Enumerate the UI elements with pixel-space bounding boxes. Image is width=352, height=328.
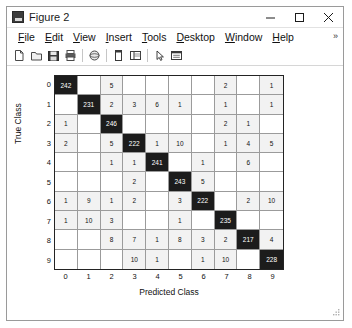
matrix-cell-9-5[interactable] <box>169 250 192 269</box>
matrix-cell-5-8[interactable] <box>237 172 260 191</box>
matrix-cell-4-8[interactable]: 6 <box>237 153 260 172</box>
matrix-cell-9-8[interactable] <box>237 250 260 269</box>
matrix-cell-9-3[interactable]: 10 <box>123 250 146 269</box>
matrix-cell-1-5[interactable]: 1 <box>169 95 192 114</box>
matrix-cell-7-9[interactable] <box>260 211 283 230</box>
matrix-cell-6-3[interactable]: 2 <box>123 192 146 211</box>
matrix-cell-7-7[interactable]: 235 <box>215 211 238 230</box>
matrix-cell-9-7[interactable]: 10 <box>215 250 238 269</box>
insert-colorbar-icon[interactable] <box>127 48 143 64</box>
matrix-cell-9-9[interactable]: 228 <box>260 250 283 269</box>
matrix-cell-5-4[interactable] <box>146 172 169 191</box>
matrix-cell-3-5[interactable]: 10 <box>169 134 192 153</box>
matrix-cell-8-6[interactable]: 3 <box>192 230 215 249</box>
matrix-cell-3-6[interactable] <box>192 134 215 153</box>
matrix-cell-5-2[interactable] <box>101 172 124 191</box>
matrix-cell-2-7[interactable]: 2 <box>215 115 238 134</box>
matrix-cell-2-3[interactable] <box>123 115 146 134</box>
matrix-cell-4-5[interactable] <box>169 153 192 172</box>
matrix-cell-4-3[interactable]: 1 <box>123 153 146 172</box>
data-cursor-icon[interactable] <box>110 48 126 64</box>
matrix-cell-5-5[interactable]: 243 <box>169 172 192 191</box>
matrix-cell-8-9[interactable]: 4 <box>260 230 283 249</box>
menu-item-view[interactable]: View <box>68 30 101 44</box>
matrix-cell-2-5[interactable] <box>169 115 192 134</box>
matrix-cell-6-8[interactable]: 2 <box>237 192 260 211</box>
matrix-cell-2-0[interactable]: 1 <box>55 115 78 134</box>
matrix-cell-8-7[interactable]: 2 <box>215 230 238 249</box>
matrix-cell-0-0[interactable]: 242 <box>55 76 78 95</box>
matrix-cell-6-6[interactable]: 222 <box>192 192 215 211</box>
matrix-cell-2-2[interactable]: 246 <box>101 115 124 134</box>
insert-legend-icon[interactable] <box>168 48 184 64</box>
matrix-cell-9-4[interactable]: 1 <box>146 250 169 269</box>
matrix-cell-1-4[interactable]: 6 <box>146 95 169 114</box>
matrix-cell-3-4[interactable]: 1 <box>146 134 169 153</box>
matrix-cell-7-5[interactable]: 1 <box>169 211 192 230</box>
matrix-cell-0-5[interactable] <box>169 76 192 95</box>
matrix-cell-8-5[interactable]: 8 <box>169 230 192 249</box>
menu-item-file[interactable]: File <box>13 30 40 44</box>
menu-item-edit[interactable]: Edit <box>40 30 68 44</box>
matrix-cell-6-5[interactable]: 3 <box>169 192 192 211</box>
maximize-button[interactable] <box>285 7 314 27</box>
matrix-cell-6-4[interactable] <box>146 192 169 211</box>
matrix-cell-2-6[interactable] <box>192 115 215 134</box>
matrix-cell-3-3[interactable]: 222 <box>123 134 146 153</box>
matrix-cell-6-2[interactable]: 1 <box>101 192 124 211</box>
matrix-cell-7-1[interactable]: 10 <box>78 211 101 230</box>
matrix-cell-1-7[interactable]: 1 <box>215 95 238 114</box>
matrix-cell-9-6[interactable]: 1 <box>192 250 215 269</box>
matrix-cell-4-1[interactable] <box>78 153 101 172</box>
matrix-cell-7-3[interactable] <box>123 211 146 230</box>
matrix-cell-4-9[interactable] <box>260 153 283 172</box>
matrix-cell-8-1[interactable] <box>78 230 101 249</box>
matrix-cell-1-0[interactable] <box>55 95 78 114</box>
matrix-cell-0-9[interactable]: 1 <box>260 76 283 95</box>
matrix-cell-0-8[interactable] <box>237 76 260 95</box>
resize-grip[interactable] <box>331 308 341 318</box>
matrix-cell-9-0[interactable] <box>55 250 78 269</box>
matrix-cell-3-8[interactable]: 4 <box>237 134 260 153</box>
save-figure-icon[interactable] <box>45 48 61 64</box>
matrix-cell-8-2[interactable]: 8 <box>101 230 124 249</box>
figure-canvas[interactable]: True Class 0123456789 242521231236111124… <box>7 66 343 320</box>
matrix-cell-1-9[interactable]: 1 <box>260 95 283 114</box>
matrix-cell-7-4[interactable] <box>146 211 169 230</box>
matrix-cell-7-8[interactable] <box>237 211 260 230</box>
matrix-cell-1-8[interactable] <box>237 95 260 114</box>
matrix-cell-2-4[interactable] <box>146 115 169 134</box>
menu-item-tools[interactable]: Tools <box>137 30 172 44</box>
new-figure-icon[interactable] <box>11 48 27 64</box>
close-button[interactable] <box>314 7 343 27</box>
matrix-cell-5-7[interactable] <box>215 172 238 191</box>
matrix-cell-6-9[interactable]: 10 <box>260 192 283 211</box>
matrix-cell-2-1[interactable] <box>78 115 101 134</box>
matrix-cell-7-0[interactable]: 1 <box>55 211 78 230</box>
matrix-cell-3-0[interactable]: 2 <box>55 134 78 153</box>
matrix-cell-9-2[interactable] <box>101 250 124 269</box>
matrix-cell-4-7[interactable] <box>215 153 238 172</box>
matrix-cell-5-1[interactable] <box>78 172 101 191</box>
matrix-cell-4-2[interactable]: 1 <box>101 153 124 172</box>
matrix-cell-5-0[interactable] <box>55 172 78 191</box>
matrix-cell-7-2[interactable]: 3 <box>101 211 124 230</box>
open-file-icon[interactable] <box>28 48 44 64</box>
matrix-cell-1-3[interactable]: 3 <box>123 95 146 114</box>
matrix-cell-6-1[interactable]: 9 <box>78 192 101 211</box>
matrix-cell-2-8[interactable]: 1 <box>237 115 260 134</box>
matrix-cell-9-1[interactable] <box>78 250 101 269</box>
rotate-3d-icon[interactable] <box>86 48 102 64</box>
matrix-cell-6-7[interactable] <box>215 192 238 211</box>
print-figure-icon[interactable] <box>62 48 78 64</box>
matrix-cell-8-8[interactable]: 217 <box>237 230 260 249</box>
matrix-cell-5-3[interactable]: 2 <box>123 172 146 191</box>
menu-item-desktop[interactable]: Desktop <box>171 30 220 44</box>
pointer-arrow-icon[interactable] <box>151 48 167 64</box>
matrix-cell-5-6[interactable]: 5 <box>192 172 215 191</box>
matrix-cell-7-6[interactable] <box>192 211 215 230</box>
matrix-cell-8-3[interactable]: 7 <box>123 230 146 249</box>
matrix-cell-2-9[interactable] <box>260 115 283 134</box>
matrix-cell-4-0[interactable] <box>55 153 78 172</box>
matrix-cell-0-1[interactable] <box>78 76 101 95</box>
